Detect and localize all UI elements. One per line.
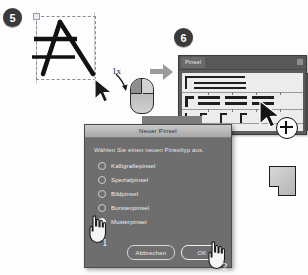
radio-indicator[interactable] <box>98 162 106 170</box>
brush-swatch[interactable] <box>225 102 247 105</box>
tick <box>208 92 209 95</box>
radio-option-bildpinsel[interactable]: Bildpinsel <box>98 187 156 201</box>
tick <box>256 109 257 112</box>
row-divider <box>182 109 303 110</box>
brush-swatch[interactable] <box>220 113 227 115</box>
tick <box>280 92 281 95</box>
radio-option-borstenpinsel[interactable]: Borstenpinsel <box>98 201 156 215</box>
order-marker-1: 1 <box>102 236 108 248</box>
tutorial-figure: 5 1x 6 Pinsel <box>0 0 308 275</box>
radio-label: Spezialpinsel <box>111 177 148 183</box>
radio-label: Kalligrafiepinsel <box>111 163 156 169</box>
panel-menu-icon[interactable] <box>297 59 303 65</box>
brush-swatch[interactable] <box>200 113 207 115</box>
tick <box>208 109 209 112</box>
dialog-title: Neuer Pinsel <box>85 125 231 138</box>
radio-option-spezialpinsel[interactable]: Spezialpinsel <box>98 173 156 187</box>
hand-cursor-step-1: 1 <box>86 214 110 248</box>
mouse-right-button <box>143 79 153 94</box>
order-marker-2: 2 <box>222 260 228 272</box>
step-badge-5: 5 <box>3 8 22 27</box>
radio-label: Bildpinsel <box>111 191 138 197</box>
radio-label: Musterpinsel <box>111 219 147 225</box>
brush-swatch[interactable] <box>225 96 247 99</box>
brush-swatch[interactable] <box>198 96 220 99</box>
radio-indicator[interactable] <box>98 190 106 198</box>
brush-swatch[interactable] <box>194 82 246 84</box>
flow-arrow-icon <box>150 63 174 81</box>
hand-cursor-step-2: 2 <box>205 240 229 274</box>
brush-swatch[interactable] <box>252 96 274 99</box>
panel-tabbar: Pinsel <box>179 56 306 70</box>
new-page-icon[interactable] <box>269 166 296 196</box>
row-divider <box>182 92 303 93</box>
mouse-left-button <box>131 79 142 94</box>
radio-indicator[interactable] <box>98 204 106 212</box>
cancel-button[interactable]: Abbrechen <box>127 245 175 260</box>
panel-tab-pinsel[interactable]: Pinsel <box>181 57 205 68</box>
mouse-icon <box>130 78 154 114</box>
plus-circle-icon[interactable] <box>276 117 298 139</box>
radio-indicator[interactable] <box>98 176 106 184</box>
radio-option-kalligrafiepinsel[interactable]: Kalligrafiepinsel <box>98 159 156 173</box>
brush-swatch[interactable] <box>185 76 245 78</box>
tick <box>256 92 257 95</box>
tick <box>232 92 233 95</box>
tick <box>232 109 233 112</box>
brush-swatch[interactable] <box>240 113 247 115</box>
brush-swatch[interactable] <box>185 96 194 99</box>
page-fold <box>269 186 279 196</box>
step-badge-6: 6 <box>174 28 193 47</box>
dialog-prompt: Wählen Sie einen neuen Pinseltyp aus. <box>94 147 204 153</box>
brush-swatch[interactable] <box>198 102 220 105</box>
radio-label: Borstenpinsel <box>111 205 149 211</box>
panel-scrollbar[interactable] <box>305 73 308 131</box>
brush-swatch[interactable] <box>194 87 246 89</box>
